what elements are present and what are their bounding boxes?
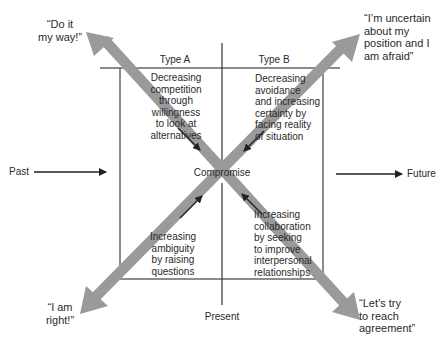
- column-header-type-a: Type A: [135, 54, 215, 66]
- quadrant-bottom-left-text: Increasing ambiguity by raising question…: [133, 231, 213, 277]
- timeline-past-label: Past: [9, 166, 29, 178]
- center-label-compromise: Compromise: [187, 167, 257, 179]
- corner-quote-top-right: “I’m uncertain about my position and I a…: [364, 12, 446, 62]
- corner-quote-bottom-left: “I am right!”: [30, 301, 90, 327]
- corner-quote-bottom-right: “Let’s try to reach agreement”: [359, 297, 444, 335]
- quadrant-top-right-text: Decreasing avoidance and increasing cert…: [255, 73, 335, 142]
- timeline-future-label: Future: [407, 168, 436, 180]
- quadrant-top-left-text: Decreasing competition through willingne…: [136, 72, 216, 141]
- column-header-type-b: Type B: [234, 54, 314, 66]
- corner-quote-top-left: “Do it my way!”: [30, 18, 90, 44]
- quadrant-bottom-right-text: Increasing collaboration by seeking to i…: [254, 209, 334, 278]
- timeline-present-label: Present: [197, 311, 247, 323]
